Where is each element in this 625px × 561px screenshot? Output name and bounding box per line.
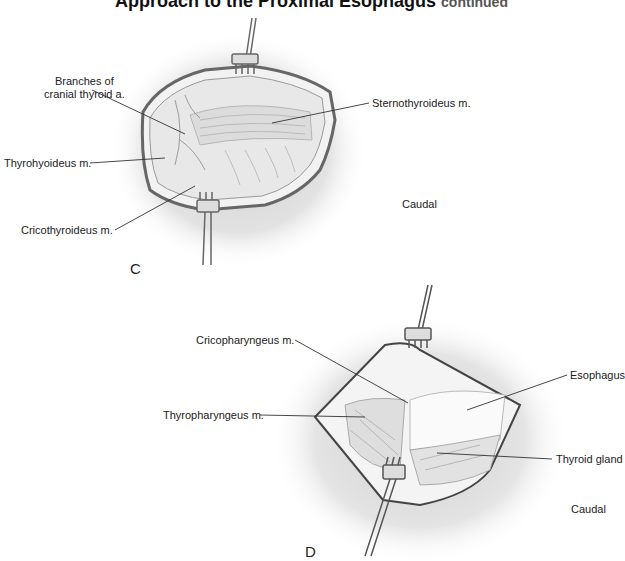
panel-letter-c: C <box>130 260 141 277</box>
panel-d-illustration <box>260 285 570 561</box>
label-esophagus: Esophagus <box>570 369 625 382</box>
label-thyropharyngeus: Thyropharyngeus m. <box>163 409 264 422</box>
panel-letter-d: D <box>305 543 316 560</box>
label-line2: cranial thyroid a. <box>44 88 125 101</box>
label-thyrohyoideus: Thyrohyoideus m. <box>4 157 91 170</box>
label-line1: Branches of <box>44 75 125 88</box>
label-cricopharyngeus: Cricopharyngeus m. <box>196 334 294 347</box>
orientation-caudal-d: Caudal <box>571 503 606 516</box>
panel-c-illustration <box>90 18 369 268</box>
sternothyroideus-muscle <box>190 106 312 145</box>
label-sternothyroideus: Sternothyroideus m. <box>372 97 470 110</box>
label-branches-cranial-thyroid: Branches of cranial thyroid a. <box>44 75 125 101</box>
orientation-caudal-c: Caudal <box>402 198 437 211</box>
label-thyroid-gland: Thyroid gland <box>556 453 623 466</box>
label-cricothyroideus: Cricothyroideus m. <box>21 224 113 237</box>
